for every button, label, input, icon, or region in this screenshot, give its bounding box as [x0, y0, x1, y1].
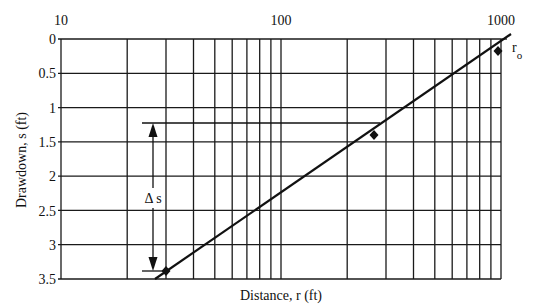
- data-points: [162, 46, 503, 276]
- y-tick-3-5: 3.5: [39, 272, 57, 287]
- fitted-line: [155, 34, 511, 279]
- y-tick-1: 1: [49, 101, 56, 116]
- y-tick-2: 2: [49, 169, 56, 184]
- y-tick-0-5: 0.5: [39, 66, 57, 81]
- drawdown-distance-chart: 10 100 1000 0 0.5 1 1.5 2 2.5 3 3.5 Dist…: [0, 0, 546, 306]
- y-tick-0: 0: [49, 32, 56, 47]
- y-tick-3: 3: [49, 238, 56, 253]
- arrow-down-icon: [149, 257, 158, 271]
- grid-vertical: [61, 39, 501, 279]
- r0-subscript: o: [517, 49, 523, 61]
- arrow-up-icon: [149, 123, 158, 137]
- delta-s-annotation: [142, 123, 380, 271]
- y-axis-title: Drawdown, s (ft): [14, 112, 30, 208]
- r0-label: ro: [512, 40, 523, 61]
- y-tick-2-5: 2.5: [39, 204, 57, 219]
- x-tick-10: 10: [54, 13, 68, 28]
- x-tick-100: 100: [271, 13, 292, 28]
- x-axis-title: Distance, r (ft): [240, 288, 322, 304]
- delta-s-label: Δ s: [144, 191, 161, 206]
- y-tick-1-5: 1.5: [39, 135, 57, 150]
- x-tick-1000: 1000: [487, 13, 515, 28]
